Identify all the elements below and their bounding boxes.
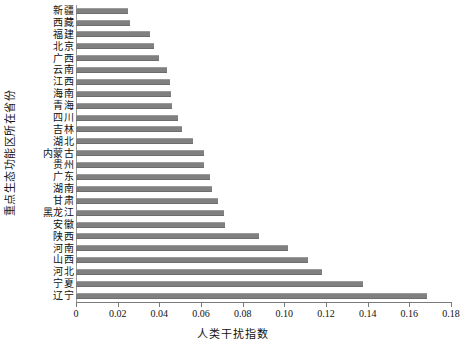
bar-row — [76, 219, 451, 230]
x-axis-tick — [76, 303, 77, 307]
x-axis-tick — [284, 303, 285, 307]
y-axis-tick-label: 安徽 — [2, 219, 76, 230]
y-axis-tick-label: 江西 — [2, 76, 76, 87]
y-axis-tick-label: 河南 — [2, 243, 76, 254]
bar — [76, 293, 427, 299]
y-axis-tick-label: 西藏 — [2, 17, 76, 28]
human-disturbance-index-bar-chart: 重点生态功能区所在省份 新疆西藏福建北京广西云南江西海南青海四川吉林湖北内蒙古贵… — [0, 0, 466, 347]
bar — [76, 162, 204, 168]
x-axis-tick-label: 0.18 — [442, 308, 460, 319]
bar-row — [76, 112, 451, 123]
x-axis-tick-label: 0.16 — [401, 308, 419, 319]
bar-row — [76, 266, 451, 277]
bar-row — [76, 100, 451, 111]
y-axis-tick-label: 辽宁 — [2, 290, 76, 301]
x-axis-ticks: 00.020.040.060.080.100.120.140.160.18 — [0, 303, 466, 323]
bar-row — [76, 17, 451, 28]
x-axis-tick-label: 0.10 — [276, 308, 294, 319]
y-axis-tick-label: 宁夏 — [2, 278, 76, 289]
bar-row — [76, 29, 451, 40]
bar — [76, 245, 288, 251]
x-axis-title: 人类干扰指数 — [0, 325, 466, 341]
bar — [76, 269, 322, 275]
bar-row — [76, 243, 451, 254]
y-axis-tick-label: 福建 — [2, 29, 76, 40]
bar — [76, 67, 167, 73]
x-axis-tick-label: 0.06 — [192, 308, 210, 319]
bar-row — [76, 64, 451, 75]
bar — [76, 281, 363, 287]
bar-row — [76, 254, 451, 265]
bar-row — [76, 148, 451, 159]
y-axis-tick-label: 广西 — [2, 53, 76, 64]
bar-row — [76, 195, 451, 206]
x-axis-tick — [409, 303, 410, 307]
x-axis-tick — [201, 303, 202, 307]
y-axis-tick-label: 新疆 — [2, 5, 76, 16]
y-axis-tick-label: 黑龙江 — [2, 207, 76, 218]
y-axis-tick-label: 云南 — [2, 64, 76, 75]
bar — [76, 233, 259, 239]
y-axis-category-labels: 新疆西藏福建北京广西云南江西海南青海四川吉林湖北内蒙古贵州广东湖南甘肃黑龙江安徽… — [0, 5, 76, 302]
x-axis-tick-label: 0.08 — [234, 308, 252, 319]
bar-row — [76, 207, 451, 218]
bar-row — [76, 278, 451, 289]
bar — [76, 55, 159, 61]
x-axis-tick — [118, 303, 119, 307]
bar — [76, 8, 128, 14]
bar — [76, 103, 172, 109]
bar-row — [76, 290, 451, 301]
bar — [76, 79, 170, 85]
y-axis-tick-label: 甘肃 — [2, 195, 76, 206]
bar — [76, 174, 210, 180]
bar — [76, 91, 171, 97]
bar-row — [76, 171, 451, 182]
bar-row — [76, 231, 451, 242]
bar-row — [76, 41, 451, 52]
y-axis-tick-label: 吉林 — [2, 124, 76, 135]
x-axis-tick-label: 0.02 — [109, 308, 127, 319]
bar — [76, 210, 224, 216]
x-axis-tick — [451, 303, 452, 307]
bar-row — [76, 76, 451, 87]
x-axis-tick-label: 0.04 — [151, 308, 169, 319]
y-axis-tick-label: 河北 — [2, 266, 76, 277]
x-axis-tick-label: 0.14 — [359, 308, 377, 319]
bar — [76, 198, 218, 204]
x-axis-tick — [368, 303, 369, 307]
x-axis-tick-label: 0 — [74, 308, 79, 319]
y-axis-tick-label: 广东 — [2, 171, 76, 182]
bar — [76, 115, 178, 121]
bar-row — [76, 159, 451, 170]
x-axis-tick — [243, 303, 244, 307]
bar-row — [76, 5, 451, 16]
bar-row — [76, 53, 451, 64]
bar-row — [76, 88, 451, 99]
y-axis-tick-label: 北京 — [2, 41, 76, 52]
y-axis-tick-label: 四川 — [2, 112, 76, 123]
y-axis-tick-label: 海南 — [2, 88, 76, 99]
bar — [76, 257, 308, 263]
bar — [76, 20, 130, 26]
plot-area — [76, 5, 451, 302]
y-axis-tick-label: 内蒙古 — [2, 148, 76, 159]
x-axis-tick — [326, 303, 327, 307]
bar-row — [76, 124, 451, 135]
bar — [76, 126, 182, 132]
bar — [76, 43, 154, 49]
y-axis-tick-label: 青海 — [2, 100, 76, 111]
bar-row — [76, 136, 451, 147]
x-axis-tick — [159, 303, 160, 307]
y-axis-tick-label: 湖北 — [2, 136, 76, 147]
y-axis-tick-label: 湖南 — [2, 183, 76, 194]
y-axis-tick-label: 山西 — [2, 254, 76, 265]
y-axis-tick-label: 贵州 — [2, 159, 76, 170]
x-axis-tick-label: 0.12 — [317, 308, 335, 319]
bar — [76, 138, 193, 144]
bar-row — [76, 183, 451, 194]
y-axis-tick-label: 陕西 — [2, 231, 76, 242]
bar — [76, 31, 150, 37]
bar — [76, 222, 225, 228]
bar — [76, 150, 204, 156]
bar — [76, 186, 212, 192]
